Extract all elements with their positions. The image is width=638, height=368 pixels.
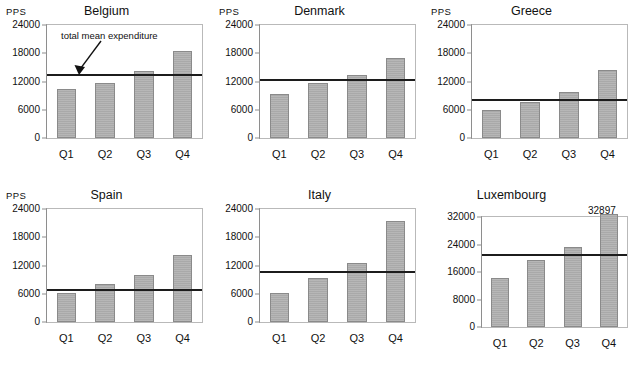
x-axis-tick-label: Q1 [493, 337, 508, 349]
bar-q3[interactable] [134, 275, 153, 322]
x-axis-tick-label: Q1 [59, 148, 74, 160]
bar-q1[interactable] [57, 89, 76, 138]
x-axis-tick-label: Q4 [602, 337, 617, 349]
x-axis-tick-label: Q3 [137, 148, 152, 160]
y-axis-tick-label: 18000 [225, 232, 260, 242]
x-axis-tick-label: Q2 [98, 148, 113, 160]
mean-expenditure-line [47, 289, 202, 291]
chart-panel-denmark: PPS Denmark 06000120001800024000Q1Q2Q3Q4 [213, 0, 426, 184]
y-axis-tick-label: 6000 [231, 289, 260, 299]
x-axis-tick-label: Q1 [484, 148, 499, 160]
panel-title-luxembourg: Luxembourg [425, 188, 638, 202]
x-axis-tick-label: Q3 [562, 148, 577, 160]
y-axis-tick-label: 18000 [437, 48, 472, 58]
y-axis-tick-label: 6000 [443, 105, 472, 115]
y-axis-tick-label: 24000 [225, 204, 260, 214]
bar-q4[interactable] [598, 70, 617, 138]
bar-q2[interactable] [95, 83, 114, 138]
y-axis-tick-label: 0 [34, 133, 47, 143]
y-axis-tick-label: 24000 [12, 20, 47, 30]
y-axis-tick-label: 24000 [437, 20, 472, 30]
y-axis-tick-label: 0 [34, 317, 47, 327]
chart-panel-luxembourg: Luxembourg 32897 08000160002400032000Q1Q… [425, 184, 638, 368]
chart-panel-italy: Italy 06000120001800024000Q1Q2Q3Q4 [213, 184, 426, 368]
x-axis-tick-label: Q3 [565, 337, 580, 349]
bar-q1[interactable] [270, 94, 289, 138]
panel-title-denmark: Denmark [213, 4, 426, 18]
y-axis-tick-label: 12000 [437, 77, 472, 87]
bar-q4[interactable] [386, 58, 405, 138]
y-axis-tick-label: 0 [247, 133, 260, 143]
x-axis-tick-label: Q2 [523, 148, 538, 160]
plot-area-italy: 06000120001800024000Q1Q2Q3Q4 [259, 208, 416, 323]
bar-q4[interactable] [600, 214, 618, 327]
y-axis-tick-label: 16000 [447, 267, 482, 277]
bar-q2[interactable] [308, 278, 327, 322]
panel-title-spain: Spain [0, 188, 213, 202]
y-axis-tick-label: 12000 [225, 261, 260, 271]
mean-line-annotation-text: total mean expenditure [61, 30, 158, 41]
y-axis-tick-label: 12000 [12, 77, 47, 87]
y-axis-tick-label: 0 [459, 133, 472, 143]
x-axis-tick-label: Q4 [175, 148, 190, 160]
bar-q1[interactable] [491, 278, 509, 327]
x-axis-tick-label: Q2 [529, 337, 544, 349]
bar-q4[interactable] [173, 51, 192, 138]
bar-q2[interactable] [527, 260, 545, 327]
x-axis-tick-label: Q4 [388, 148, 403, 160]
chart-panel-spain: PPS Spain 06000120001800024000Q1Q2Q3Q4 [0, 184, 213, 368]
bar-q1[interactable] [270, 293, 289, 322]
panel-title-greece: Greece [425, 4, 638, 18]
annotation-arrow-icon [69, 41, 129, 75]
chart-panel-greece: PPS Greece 06000120001800024000Q1Q2Q3Q4 [425, 0, 638, 184]
y-axis-tick-label: 18000 [225, 48, 260, 58]
x-axis-tick-label: Q2 [311, 148, 326, 160]
y-axis-tick-label: 24000 [225, 20, 260, 30]
chart-panel-belgium: PPS Belgium 06000120001800024000Q1Q2Q3Q4… [0, 0, 213, 184]
bar-q2[interactable] [308, 83, 327, 138]
plot-area-denmark: 06000120001800024000Q1Q2Q3Q4 [259, 24, 416, 139]
x-axis-tick-label: Q3 [350, 332, 365, 344]
mean-expenditure-line [260, 271, 415, 273]
mean-expenditure-line [482, 254, 627, 256]
x-axis-tick-label: Q1 [272, 332, 287, 344]
mean-expenditure-line [472, 99, 627, 101]
x-axis-tick-label: Q4 [175, 332, 190, 344]
bar-q1[interactable] [482, 110, 501, 138]
figure-canvas: PPS Belgium 06000120001800024000Q1Q2Q3Q4… [0, 0, 638, 368]
bar-q3[interactable] [134, 71, 153, 138]
bar-q1[interactable] [57, 293, 76, 322]
x-axis-tick-label: Q2 [311, 332, 326, 344]
y-axis-tick-label: 6000 [18, 289, 47, 299]
y-axis-tick-label: 24000 [12, 204, 47, 214]
y-axis-tick-label: 24000 [447, 240, 482, 250]
x-axis-tick-label: Q3 [137, 332, 152, 344]
y-axis-tick-label: 0 [247, 317, 260, 327]
x-axis-tick-label: Q2 [98, 332, 113, 344]
y-axis-tick-label: 8000 [453, 295, 482, 305]
y-axis-tick-label: 6000 [18, 105, 47, 115]
y-axis-tick-label: 0 [469, 322, 482, 332]
bar-q2[interactable] [520, 102, 539, 138]
y-axis-tick-label: 32000 [447, 212, 482, 222]
x-axis-tick-label: Q1 [272, 148, 287, 160]
x-axis-tick-label: Q4 [600, 148, 615, 160]
plot-area-spain: 06000120001800024000Q1Q2Q3Q4 [46, 208, 203, 323]
panel-title-belgium: Belgium [0, 4, 213, 18]
plot-area-luxembourg: 08000160002400032000Q1Q2Q3Q4 [481, 216, 628, 328]
bar-q3[interactable] [564, 247, 582, 327]
bar-q3[interactable] [347, 75, 366, 138]
mean-expenditure-line [260, 79, 415, 81]
panel-title-italy: Italy [213, 188, 426, 202]
y-axis-tick-label: 12000 [225, 77, 260, 87]
y-axis-tick-label: 18000 [12, 232, 47, 242]
plot-area-greece: 06000120001800024000Q1Q2Q3Q4 [471, 24, 628, 139]
x-axis-tick-label: Q1 [59, 332, 74, 344]
plot-area-belgium: 06000120001800024000Q1Q2Q3Q4total mean e… [46, 24, 203, 139]
x-axis-tick-label: Q3 [350, 148, 365, 160]
y-axis-tick-label: 18000 [12, 48, 47, 58]
x-axis-tick-label: Q4 [388, 332, 403, 344]
y-axis-tick-label: 6000 [231, 105, 260, 115]
y-axis-tick-label: 12000 [12, 261, 47, 271]
